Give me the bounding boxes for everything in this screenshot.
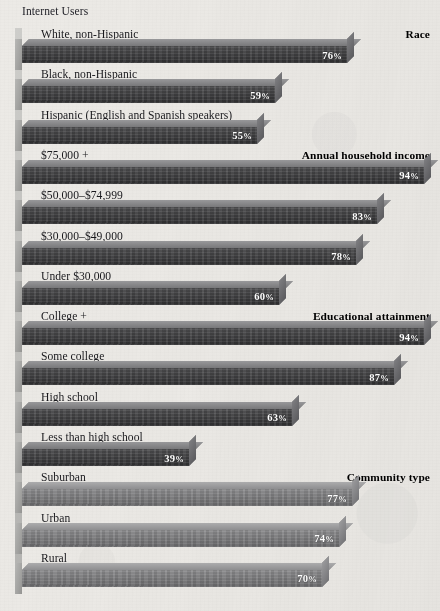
bar-top (22, 402, 306, 409)
bar-value-number: 87 (369, 371, 380, 382)
bar-value-label: 59% (250, 89, 270, 100)
bar: 83% (22, 207, 377, 224)
bar-cap (275, 72, 282, 103)
bar-face (22, 530, 339, 547)
bar-row: College +Educational attainment94% (0, 308, 440, 349)
bar-value-suffix: % (265, 292, 274, 302)
bar-cap (424, 153, 431, 184)
bar: 55% (22, 127, 257, 144)
bar: 94% (22, 167, 424, 184)
bar-row: $75,000 +Annual household income94% (0, 147, 440, 188)
bar-top (22, 361, 408, 368)
bar-value-suffix: % (325, 534, 334, 544)
bar: 94% (22, 328, 424, 345)
bar: 74% (22, 530, 339, 547)
bar-value-number: 94 (399, 170, 410, 181)
bar-row: $50,000–$74,99983% (0, 187, 440, 228)
bar-stub (15, 563, 22, 594)
bar-top (22, 160, 438, 167)
bar-top (22, 79, 289, 86)
bar-row: SuburbanCommunity type77% (0, 469, 440, 510)
bar-face (22, 248, 356, 265)
bar: 59% (22, 86, 275, 103)
bar-value-label: 87% (369, 371, 389, 382)
bar-value-suffix: % (261, 90, 270, 100)
bar-value-label: 77% (327, 492, 347, 503)
bar-top (22, 321, 438, 328)
bar: 60% (22, 288, 279, 305)
bar-row: High school63% (0, 389, 440, 430)
bar-value-suffix: % (363, 211, 372, 221)
bar-row: Rural70% (0, 550, 440, 591)
bar-face (22, 409, 292, 426)
bar-row: Under $30,00060% (0, 268, 440, 309)
bar-row: Hispanic (English and Spanish speakers)5… (0, 107, 440, 148)
bar-cap (339, 516, 346, 547)
bar-face (22, 288, 279, 305)
bar-value-label: 39% (164, 452, 184, 463)
bar-cap (394, 354, 401, 385)
bar: 76% (22, 46, 347, 63)
bar-row: Urban74% (0, 510, 440, 551)
bar-top (22, 482, 366, 489)
bar-cap (279, 274, 286, 305)
bar-cap (377, 193, 384, 224)
bar-cap (347, 32, 354, 63)
bar-value-suffix: % (338, 493, 347, 503)
bar-value-number: 76 (322, 49, 333, 60)
bar-value-label: 55% (232, 130, 252, 141)
bar-value-suffix: % (410, 171, 419, 181)
bar: 87% (22, 368, 394, 385)
bar-face (22, 127, 257, 144)
bar-top (22, 39, 361, 46)
bar-value-suffix: % (308, 574, 317, 584)
bar-value-number: 39 (164, 452, 175, 463)
bar-face (22, 489, 352, 506)
bar-value-label: 63% (267, 412, 287, 423)
bar-face (22, 570, 322, 587)
bar-top (22, 523, 353, 530)
bar-face (22, 368, 394, 385)
bar: 77% (22, 489, 352, 506)
bar-top (22, 120, 271, 127)
bar-value-number: 63 (267, 412, 278, 423)
bar-value-label: 78% (331, 251, 351, 262)
bar-value-suffix: % (380, 372, 389, 382)
bar-value-number: 70 (297, 573, 308, 584)
bar-face (22, 86, 275, 103)
bar-value-label: 76% (322, 49, 342, 60)
bar-value-number: 77 (327, 492, 338, 503)
bar-face (22, 167, 424, 184)
bar-value-suffix: % (243, 131, 252, 141)
bar-cap (292, 395, 299, 426)
bar-face (22, 46, 347, 63)
bar-value-suffix: % (278, 413, 287, 423)
bar-top (22, 563, 336, 570)
bar-value-label: 94% (399, 331, 419, 342)
internet-users-bar-chart: Internet Users White, non-HispanicRace76… (0, 0, 440, 611)
bar-cap (322, 556, 329, 587)
bar-cap (424, 314, 431, 345)
bar-top (22, 241, 370, 248)
bar-value-suffix: % (410, 332, 419, 342)
bar: 78% (22, 248, 356, 265)
bar-value-number: 83 (352, 210, 363, 221)
bar: 39% (22, 449, 189, 466)
bar-value-number: 59 (250, 89, 261, 100)
bar-row: $30,000–$49,00078% (0, 228, 440, 269)
bar-value-number: 60 (254, 291, 265, 302)
bar-value-label: 60% (254, 291, 274, 302)
bar-value-suffix: % (333, 50, 342, 60)
bar-value-number: 55 (232, 130, 243, 141)
bar-value-label: 94% (399, 170, 419, 181)
bar-cap (356, 234, 363, 265)
bar-value-label: 83% (352, 210, 372, 221)
bar-value-label: 70% (297, 573, 317, 584)
bar-cap (189, 435, 196, 466)
bar-value-number: 74 (314, 533, 325, 544)
bar-cap (257, 113, 264, 144)
bar-value-label: 74% (314, 533, 334, 544)
bar-top (22, 200, 391, 207)
bar-value-number: 94 (399, 331, 410, 342)
bar-row: Some college87% (0, 348, 440, 389)
